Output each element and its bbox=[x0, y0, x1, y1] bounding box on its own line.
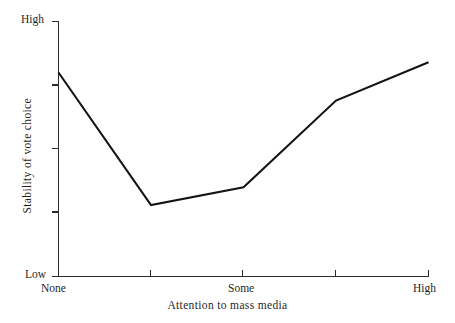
x-axis-title: Attention to mass media bbox=[0, 300, 455, 312]
chart-figure: High Low None Some High Attention to mas… bbox=[0, 0, 455, 323]
x-axis-label-some: Some bbox=[228, 283, 254, 295]
y-axis-title: Stability of vote choice bbox=[22, 66, 34, 246]
y-axis-bottom-label: Low bbox=[25, 269, 46, 281]
y-axis-top-label: High bbox=[21, 14, 44, 26]
data-series-line bbox=[59, 62, 429, 205]
y-axis-ticks bbox=[52, 22, 59, 277]
x-axis-label-none: None bbox=[41, 283, 66, 295]
line-chart-plot bbox=[0, 0, 455, 323]
x-axis-ticks bbox=[59, 270, 429, 277]
x-axis-label-high: High bbox=[413, 283, 436, 295]
